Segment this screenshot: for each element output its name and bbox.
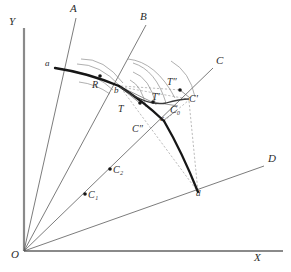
point-label-b: b [114,86,119,95]
ray-label-a: A [70,3,77,14]
axes-group [24,28,283,251]
dot-t-dprime [178,88,182,92]
ray-label-b: B [140,11,147,22]
ray-a-line [24,18,76,251]
ray-label-d: D [268,153,276,164]
point-label-t: T [118,104,124,114]
arc-right-2 [133,63,166,103]
dot-t [138,101,142,105]
point-label-r: R [92,80,98,90]
point-label-a: a [45,59,50,68]
point-label-t-double-prime: T″ [167,77,177,87]
geometry-figure: Y X O A B C D a b c d R T T' T″ C' C₀ C″… [0,0,291,272]
ray-label-c: C [216,55,223,66]
dot-c-one [83,192,87,196]
point-label-d: d [196,189,201,198]
x-axis-label: X [254,252,261,263]
point-label-t-prime: T' [152,92,160,102]
point-label-c: c [160,114,164,123]
y-axis-label: Y [9,16,15,27]
dot-r [98,74,102,78]
point-label-c-double-prime: C″ [132,124,143,134]
ray-d-line [24,166,264,251]
point-label-c-prime: C' [189,94,198,104]
point-label-c-zero: C₀ [170,105,180,115]
point-label-c-two: C₂ [113,165,123,175]
point-label-c-one: C₁ [88,190,98,200]
curve-c-d [164,121,198,192]
diagram-canvas [0,0,291,272]
dot-c-two [108,167,112,171]
rays-group [24,18,264,251]
origin-label: O [11,249,19,260]
